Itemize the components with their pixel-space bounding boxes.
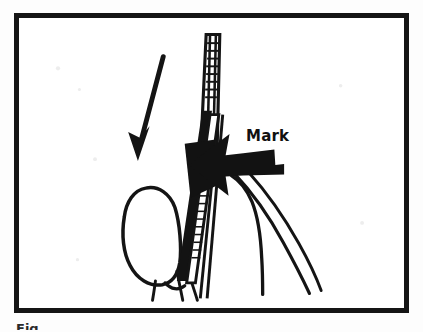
figure-border-frame: Mark [14, 13, 409, 313]
advance-arrow-shaft [141, 57, 163, 142]
anatomy-outlines [123, 173, 321, 301]
advance-arrow [128, 57, 163, 161]
figure-caption-partial: Fig [16, 322, 56, 330]
figure-container: Mark Fig [0, 0, 423, 332]
vessel-outline [123, 188, 181, 286]
needle-catheter-assembly [177, 111, 223, 299]
mark-label: Mark [246, 129, 289, 144]
advance-arrow-head [128, 126, 149, 161]
medical-illustration-drawing [19, 18, 404, 308]
tissue-fold-right-upper [231, 176, 262, 295]
vessel-neck [165, 283, 184, 289]
